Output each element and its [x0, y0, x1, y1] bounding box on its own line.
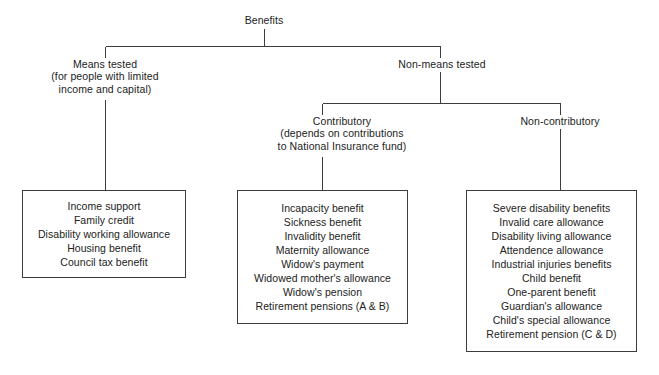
- list-item: Sickness benefit: [284, 215, 361, 229]
- benefits-tree-diagram: Benefits Means tested (for people with l…: [0, 0, 659, 375]
- node-non-means-tested: Non-means tested: [380, 58, 504, 70]
- list-item: Family credit: [74, 213, 134, 227]
- node-contributory: Contributory (depends on contributions t…: [250, 115, 434, 152]
- list-item: Council tax benefit: [60, 255, 147, 269]
- list-item: Disability living allowance: [492, 229, 612, 243]
- list-item: Invalid care allowance: [499, 215, 603, 229]
- node-benefits-root-label: Benefits: [214, 14, 314, 26]
- box-means-tested-benefits: Income support Family credit Disability …: [22, 190, 186, 278]
- node-non-contributory-line-1: Non-contributory: [498, 115, 622, 127]
- node-means-tested-line-2: (for people with limited: [25, 70, 185, 82]
- list-item: One-parent benefit: [507, 285, 595, 299]
- list-item: Disability working allowance: [38, 227, 170, 241]
- node-contributory-line-3: to National Insurance fund): [250, 140, 434, 152]
- box-non-contributory-benefits: Severe disability benefits Invalid care …: [466, 190, 637, 352]
- node-benefits-root: Benefits: [214, 14, 314, 26]
- list-item: Housing benefit: [67, 241, 141, 255]
- list-item: Attendence allowance: [500, 243, 604, 257]
- list-item: Severe disability benefits: [493, 201, 610, 215]
- list-item: Invalidity benefit: [284, 229, 360, 243]
- node-contributory-line-2: (depends on contributions: [250, 127, 434, 139]
- node-non-means-tested-line-1: Non-means tested: [380, 58, 504, 70]
- node-non-contributory: Non-contributory: [498, 115, 622, 127]
- list-item: Retirement pensions (A & B): [256, 299, 390, 313]
- list-item: Widow's pension: [283, 285, 362, 299]
- list-item: Guardian's allowance: [501, 299, 602, 313]
- box-contributory-benefits: Incapacity benefit Sickness benefit Inva…: [237, 190, 408, 324]
- list-item: Incapacity benefit: [281, 201, 364, 215]
- node-means-tested: Means tested (for people with limited in…: [25, 58, 185, 95]
- node-contributory-line-1: Contributory: [250, 115, 434, 127]
- list-item: Child benefit: [522, 271, 581, 285]
- list-item: Widow's payment: [281, 257, 364, 271]
- list-item: Retirement pension (C & D): [486, 327, 616, 341]
- list-item: Maternity allowance: [276, 243, 370, 257]
- list-item: Industrial injuries benefits: [492, 257, 612, 271]
- list-item: Widowed mother's allowance: [254, 271, 391, 285]
- list-item: Child's special allowance: [493, 313, 611, 327]
- node-means-tested-line-3: income and capital): [25, 83, 185, 95]
- node-means-tested-line-1: Means tested: [25, 58, 185, 70]
- list-item: Income support: [67, 199, 140, 213]
